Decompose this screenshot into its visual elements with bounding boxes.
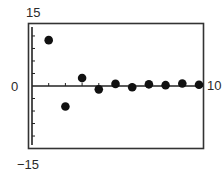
data-point <box>95 85 104 94</box>
data-point <box>195 80 204 89</box>
data-point <box>178 79 187 88</box>
data-points <box>44 36 203 111</box>
scatter-plot <box>0 0 222 177</box>
data-point <box>128 83 137 92</box>
data-point <box>161 81 170 90</box>
data-point <box>61 102 70 111</box>
data-point <box>145 80 154 89</box>
data-point <box>111 80 120 89</box>
data-point <box>78 74 87 83</box>
data-point <box>44 36 53 45</box>
